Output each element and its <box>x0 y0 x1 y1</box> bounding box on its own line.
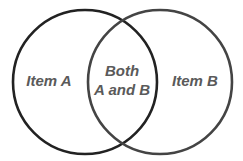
set-a-label: Item A <box>26 72 71 89</box>
intersection-label-line1: Both <box>105 62 139 79</box>
venn-diagram: Item A Both A and B Item B <box>0 0 243 161</box>
intersection-label-line2: A and B <box>93 81 150 98</box>
set-b-label: Item B <box>172 72 218 89</box>
